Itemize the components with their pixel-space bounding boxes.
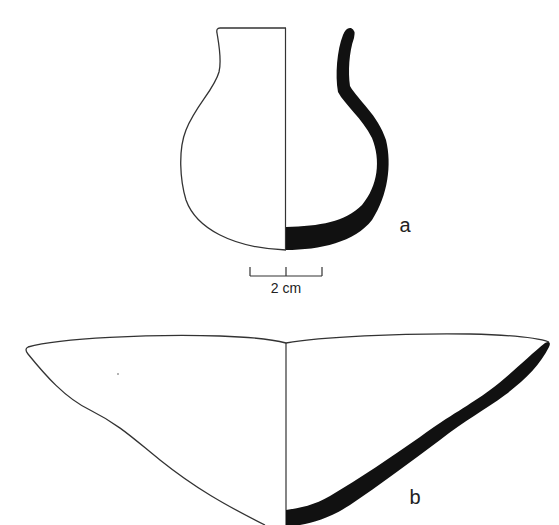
vessel-b [26, 334, 550, 525]
vessel-a [181, 28, 389, 250]
vessel-a-section [286, 28, 389, 250]
stray-dot [117, 373, 119, 375]
pottery-drawing: 2 cm a b [0, 0, 559, 525]
vessel-b-rim [28, 334, 549, 347]
vessel-b-label: b [409, 486, 420, 508]
vessel-a-left-outline [181, 28, 286, 250]
scale-bar-label: 2 cm [271, 280, 301, 296]
vessel-b-left-outline [26, 347, 265, 525]
scale-bar: 2 cm [250, 267, 322, 296]
vessel-a-label: a [399, 214, 411, 236]
